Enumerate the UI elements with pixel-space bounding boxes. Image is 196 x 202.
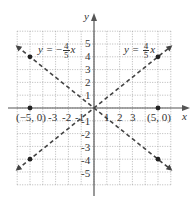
equation-sign: − xyxy=(56,43,62,55)
x-tick-neg3: -3 xyxy=(48,112,57,123)
y-tick-2: 2 xyxy=(85,77,91,88)
data-point xyxy=(28,157,33,162)
x-axis-label: x xyxy=(182,111,187,122)
denominator: 5 xyxy=(63,51,70,59)
y-tick-neg5: -5 xyxy=(81,168,90,179)
fraction: 45 xyxy=(63,42,70,59)
y-tick-4: 4 xyxy=(85,51,91,62)
line-arrow-icon xyxy=(16,45,23,51)
equation-label-positive-slope: y = 45x xyxy=(124,42,155,59)
equation-label-negative-slope: y = −45x xyxy=(38,42,75,59)
equation-lhs: y = xyxy=(38,43,53,55)
equation-var: x xyxy=(71,43,76,55)
coordinate-plane xyxy=(0,0,196,202)
y-tick-neg4: -4 xyxy=(81,155,90,166)
data-point xyxy=(156,54,161,59)
data-point xyxy=(156,157,161,162)
y-tick-neg1: -1 xyxy=(81,116,90,127)
fraction: 45 xyxy=(143,42,150,59)
point-label-5-0: (5, 0) xyxy=(147,112,171,123)
x-tick-1: 1 xyxy=(104,112,110,123)
axes xyxy=(8,13,190,196)
y-tick-neg2: -2 xyxy=(81,129,90,140)
y-axis-label: y xyxy=(84,11,89,22)
line-arrow-icon xyxy=(16,165,23,171)
y-axis-arrow-icon xyxy=(91,13,97,21)
x-tick-neg2: -2 xyxy=(62,112,71,123)
x-intercept-point xyxy=(156,106,161,111)
x-intercept-point xyxy=(28,106,33,111)
point-label-neg5-0: (−5, 0) xyxy=(16,112,46,123)
y-tick-3: 3 xyxy=(85,64,91,75)
x-tick-2: 2 xyxy=(117,112,123,123)
equation-var: x xyxy=(150,43,155,55)
x-tick-3: 3 xyxy=(130,112,136,123)
equation-lhs: y = xyxy=(124,43,139,55)
denominator: 5 xyxy=(143,51,150,59)
data-point xyxy=(28,54,33,59)
y-tick-5: 5 xyxy=(85,38,91,49)
y-tick-1: 1 xyxy=(85,90,91,101)
y-tick-neg3: -3 xyxy=(81,142,90,153)
